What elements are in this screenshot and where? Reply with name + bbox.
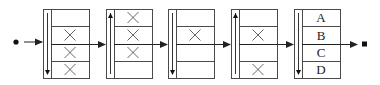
start-dot-icon (13, 39, 18, 44)
slot-label: A (316, 10, 326, 25)
pipeline-diagram: ABCD (0, 0, 380, 85)
diagram-svg: ABCD (0, 0, 380, 85)
slot-label: C (317, 45, 326, 60)
slot-label: D (316, 62, 325, 77)
slot-label: B (317, 28, 326, 43)
end-square-icon (362, 42, 367, 47)
